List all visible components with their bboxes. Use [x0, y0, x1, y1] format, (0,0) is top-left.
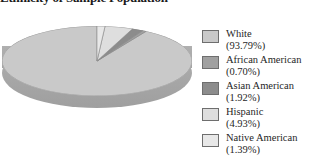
legend-item-asian-american[interactable]: Asian American (1.92%)	[202, 80, 329, 103]
legend-label-hispanic: Hispanic	[226, 106, 263, 118]
legend-value-asian-american: (1.92%)	[226, 92, 294, 104]
page-title: Ethnicity of Sample Population	[0, 0, 168, 4]
legend-swatch-white	[202, 30, 219, 43]
legend-item-hispanic[interactable]: Hispanic (4.93%)	[202, 106, 329, 129]
legend-item-native-american[interactable]: Native American (1.39%)	[202, 132, 329, 155]
legend-swatch-native-american	[202, 134, 219, 147]
pie-top-face	[2, 26, 192, 96]
legend-label-asian-american: Asian American	[226, 80, 294, 92]
legend-swatch-asian-american	[202, 82, 219, 95]
pie-chart	[2, 26, 194, 114]
legend-value-native-american: (1.39%)	[226, 144, 297, 156]
legend-item-african-american[interactable]: African American (0.70%)	[202, 54, 329, 77]
pie-slices	[2, 26, 192, 96]
legend-value-hispanic: (4.93%)	[226, 118, 263, 130]
legend-value-white: (93.79%)	[226, 40, 265, 52]
legend-label-white: White	[226, 28, 265, 40]
legend-swatch-hispanic	[202, 108, 219, 121]
legend-swatch-african-american	[202, 56, 219, 69]
legend: White (93.79%) African American (0.70%) …	[202, 28, 329, 158]
chart-figure: Ethnicity of Sample Population White (93…	[0, 0, 329, 165]
legend-item-white[interactable]: White (93.79%)	[202, 28, 329, 51]
legend-label-african-american: African American	[226, 54, 302, 66]
legend-value-african-american: (0.70%)	[226, 66, 302, 78]
legend-label-native-american: Native American	[226, 132, 297, 144]
